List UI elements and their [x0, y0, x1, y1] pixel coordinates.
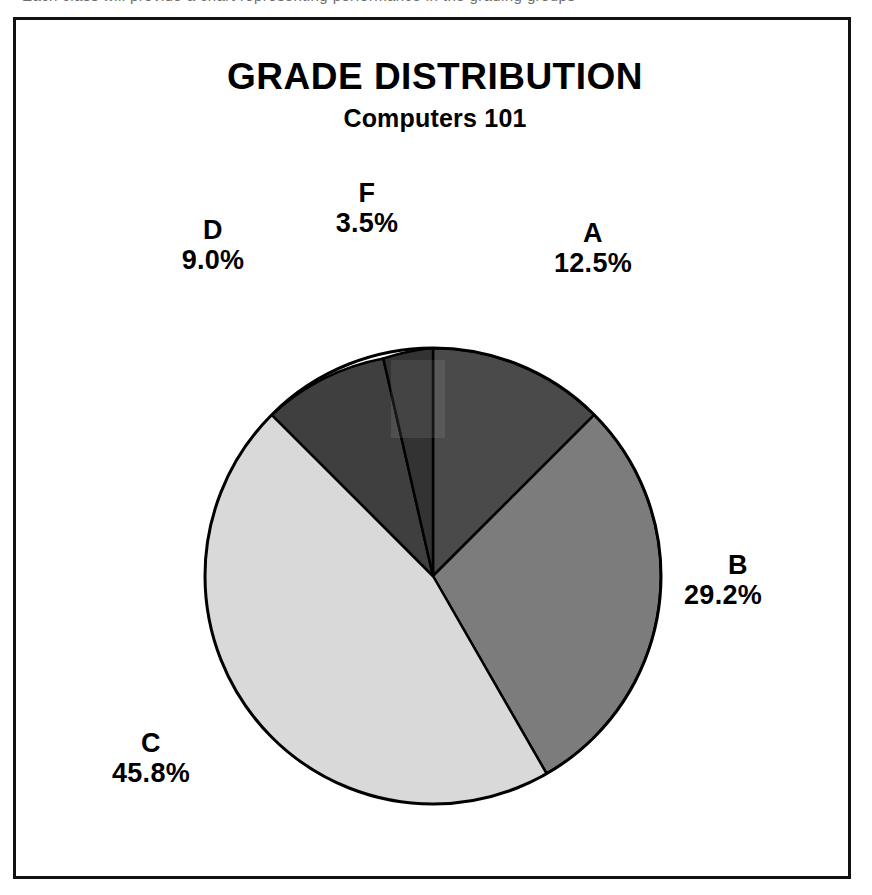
slice-label-f-value: 3.5%: [312, 208, 422, 238]
slice-label-d-name: D: [158, 215, 268, 245]
pie-chart-svg: [203, 250, 663, 806]
pie-chart: F 3.5% D 9.0% A 12.5% B 29.2% C 45.8%: [16, 20, 854, 876]
scan-artifact-blotch: [391, 360, 445, 438]
slice-label-c-name: C: [76, 728, 226, 758]
slice-label-d: D 9.0%: [158, 215, 268, 275]
slice-label-a-value: 12.5%: [528, 248, 658, 278]
clipped-page-text: Each class will provide a chart represen…: [0, 0, 872, 13]
slice-label-d-value: 9.0%: [158, 245, 268, 275]
slice-label-f: F 3.5%: [312, 178, 422, 238]
slice-label-b-name: B: [728, 550, 844, 580]
figure-frame: GRADE DISTRIBUTION Computers 101: [13, 17, 851, 879]
slice-label-c-value: 45.8%: [76, 758, 226, 788]
slice-label-c: C 45.8%: [76, 728, 226, 788]
slice-label-a: A 12.5%: [528, 218, 658, 278]
slice-label-b-value: 29.2%: [684, 580, 844, 610]
clipped-page-text-line: Each class will provide a chart represen…: [22, 0, 575, 4]
slice-label-b: B 29.2%: [684, 550, 844, 610]
slice-label-f-name: F: [312, 178, 422, 208]
slice-label-a-name: A: [528, 218, 658, 248]
